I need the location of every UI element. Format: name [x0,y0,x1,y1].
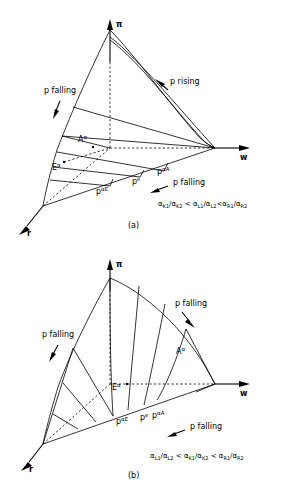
label-E-alpha: Eα [112,382,121,392]
panel-caption: (b) [128,471,139,480]
axis-label-r: r [27,229,31,238]
annotation-p-falling-bottom: p falling [173,178,205,187]
annotation-p-falling-bottom: p falling [190,422,222,431]
isoprice-contours-lower [50,136,164,186]
axis-w [215,381,250,387]
point-E-alpha [63,148,110,163]
annotation-p-falling-left: p falling [42,330,74,339]
label-E-alpha: Eα [52,162,61,172]
surface-bottom-edge [43,148,215,206]
svg-text:αK1/αK2 < αL1/αL2<αR1/αR2: αK1/αK2 < αL1/αL2<αR1/αR2 [158,200,247,209]
surface-right-fold [110,40,215,148]
panel-a-diagram: π w r [0,0,308,244]
label-p-alpha-A: pαA [152,410,165,420]
inequality-expression: αL1/αL2 < αK1/αK2 < αR1/αR2 [150,452,244,461]
panel-caption: (a) [128,221,139,230]
A-alpha-wedge [186,329,215,392]
surface-bottom-edge [43,384,215,444]
annotation-p-falling-left: p falling [44,86,76,95]
label-p-alpha-E: pαE [96,186,109,196]
label-p-e: pe [132,176,141,186]
label-p-e: pe [140,412,149,422]
axis-label-w: w [240,153,248,162]
label-p-alpha-A: pαA [157,166,170,176]
surface-left-edge [43,30,110,206]
label-A-alpha: Aα [78,134,87,144]
arrow-p-falling-bottom [150,186,168,193]
axis-r [19,206,43,235]
annotation-p-falling-right: p falling [175,299,207,308]
svg-text:αL1/αL2 < αK1/αK2 < αR1/αR2: αL1/αL2 < αK1/αK2 < αR1/αR2 [150,452,244,461]
axis-label-r: r [29,465,33,474]
axis-label-pi: π [116,260,122,269]
axis-label-pi: π [116,20,122,29]
surface-right-edge [110,278,215,384]
inequality-expression: αK1/αK2 < αL1/αL2<αR1/αR2 [158,200,247,209]
isoprice-contours-left [43,348,113,444]
panel-b-diagram: π w r Aα [0,244,308,488]
point-E-alpha [126,383,128,385]
panel-b: π w r Aα [0,244,308,488]
arrow-p-falling-left [49,345,58,362]
label-A-alpha: Aα [176,346,185,356]
surface-left-edge [43,278,110,444]
isoprice-contours-upper [62,37,215,148]
axis-label-w: w [240,389,248,398]
arrow-p-falling-left [53,101,60,119]
panel-a: π w r [0,0,308,244]
axis-w [215,145,250,151]
arrow-p-falling-bottom [167,430,185,437]
point-A-alpha [92,146,94,148]
hidden-edge-r-pi [43,148,110,206]
label-p-alpha-E: pαE [116,416,129,426]
arrow-p-falling-right [182,312,195,328]
annotation-p-rising: p rising [170,77,200,86]
